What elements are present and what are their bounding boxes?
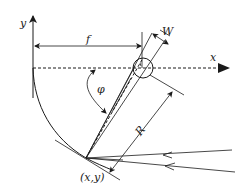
beam-edge-outer [86, 40, 165, 158]
incident-ray-2 [86, 158, 235, 172]
receiver-center-mark [140, 63, 141, 66]
normal-line [150, 75, 184, 95]
y-axis-label: y [19, 17, 27, 30]
angle-label: φ [97, 83, 105, 96]
parabola-curve [33, 68, 86, 158]
point-label: (x,y) [80, 171, 105, 184]
focal-length-label: f [85, 33, 92, 46]
x-axis-arrowhead [218, 63, 230, 73]
incident-ray-1-arrow [163, 152, 172, 158]
diagram-canvas: y x f W φ R (x,y) [0, 0, 247, 194]
aperture-width-label: W [162, 25, 175, 38]
incident-ray-1 [86, 150, 232, 158]
x-axis-label: x [210, 51, 217, 64]
